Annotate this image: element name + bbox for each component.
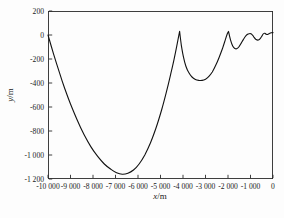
x-tick-label: -4 000 [173, 182, 193, 191]
x-tick-label: -9 000 [61, 182, 81, 191]
y-tick-label: -1 000 [24, 151, 44, 160]
plot-frame [48, 11, 272, 178]
x-tick-label: -7 000 [106, 182, 126, 191]
y-tick-label: -600 [30, 103, 44, 112]
y-axis-label: y/m [5, 88, 15, 102]
y-axis-variable: y [5, 98, 15, 102]
x-axis-label: x/m [153, 191, 167, 201]
plot-area: -10 000-9 000-8 000-7 000-6 000-5 000-4 … [0, 0, 284, 218]
x-tick-label: 0 [271, 182, 275, 191]
x-tick-label: -5 000 [151, 182, 171, 191]
y-axis-unit: /m [5, 88, 15, 98]
y-tick-label: -800 [30, 127, 44, 136]
x-tick-label: -1 000 [241, 182, 261, 191]
x-axis-unit: /m [157, 191, 167, 201]
y-tick-label: -400 [30, 79, 44, 88]
y-tick-label: 200 [33, 7, 45, 16]
x-tick-label: -8 000 [83, 182, 103, 191]
y-tick-label: -1 200 [24, 175, 44, 184]
x-axis-ticks: -10 000-9 000-8 000-7 000-6 000-5 000-4 … [36, 175, 275, 191]
y-tick-label: 0 [40, 31, 44, 40]
y-tick-label: -200 [30, 55, 44, 64]
x-tick-label: -2 000 [218, 182, 238, 191]
x-tick-label: -6 000 [128, 182, 148, 191]
x-tick-label: -3 000 [196, 182, 216, 191]
curve-path [48, 31, 273, 174]
line-chart-figure: -10 000-9 000-8 000-7 000-6 000-5 000-4 … [0, 0, 284, 218]
